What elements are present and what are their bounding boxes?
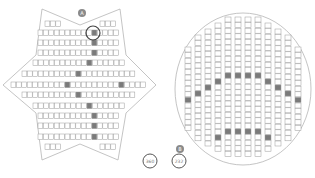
seat[interactable] (92, 92, 97, 98)
seat[interactable] (44, 71, 49, 77)
seat[interactable] (225, 79, 231, 84)
seat[interactable] (76, 40, 81, 46)
seat[interactable] (235, 101, 241, 106)
seat[interactable] (285, 97, 291, 102)
seat[interactable] (185, 58, 191, 63)
seat[interactable] (255, 84, 261, 89)
seat[interactable] (255, 146, 261, 151)
seat[interactable] (215, 141, 221, 146)
seat[interactable] (43, 30, 48, 36)
seat[interactable] (275, 57, 281, 62)
seat[interactable] (235, 45, 241, 50)
seat[interactable] (235, 39, 241, 44)
seat[interactable] (245, 51, 251, 56)
seat-selected[interactable] (215, 135, 221, 140)
seat[interactable] (245, 118, 251, 123)
seat[interactable] (255, 123, 261, 128)
seat[interactable] (275, 113, 281, 118)
seat[interactable] (38, 103, 43, 109)
seat[interactable] (225, 23, 231, 28)
seat[interactable] (33, 60, 38, 66)
seat[interactable] (275, 130, 281, 135)
seat[interactable] (265, 107, 271, 112)
seat[interactable] (103, 30, 108, 36)
seat[interactable] (205, 35, 211, 40)
seat[interactable] (195, 74, 201, 79)
seat[interactable] (60, 50, 65, 56)
seat[interactable] (33, 92, 38, 98)
seat[interactable] (275, 141, 281, 146)
seat-selected[interactable] (87, 103, 92, 109)
seat-selected[interactable] (205, 85, 211, 90)
seat[interactable] (185, 69, 191, 74)
seat[interactable] (60, 71, 65, 77)
seat[interactable] (43, 113, 48, 119)
seat[interactable] (245, 101, 251, 106)
seat[interactable] (195, 136, 201, 141)
seat[interactable] (16, 82, 21, 88)
seat[interactable] (109, 103, 114, 109)
seat[interactable] (98, 103, 103, 109)
seat[interactable] (285, 35, 291, 40)
seat[interactable] (215, 146, 221, 151)
seat[interactable] (108, 113, 113, 119)
seat[interactable] (195, 119, 201, 124)
seat[interactable] (265, 68, 271, 73)
seat[interactable] (76, 113, 81, 119)
seat[interactable] (285, 74, 291, 79)
seat[interactable] (195, 69, 201, 74)
seat[interactable] (255, 45, 261, 50)
seat[interactable] (60, 92, 65, 98)
seat[interactable] (235, 17, 241, 22)
seat[interactable] (185, 103, 191, 108)
seat[interactable] (100, 21, 105, 27)
seat[interactable] (285, 102, 291, 107)
seat[interactable] (245, 67, 251, 72)
seat[interactable] (275, 74, 281, 79)
seat[interactable] (38, 40, 43, 46)
seat[interactable] (114, 50, 119, 56)
seat[interactable] (54, 40, 59, 46)
seat[interactable] (43, 82, 48, 88)
seat[interactable] (245, 39, 251, 44)
seat[interactable] (295, 58, 301, 63)
seat[interactable] (114, 113, 119, 119)
seat[interactable] (38, 92, 43, 98)
seat[interactable] (195, 108, 201, 113)
seat[interactable] (275, 29, 281, 34)
seat[interactable] (275, 102, 281, 107)
seat[interactable] (56, 144, 61, 150)
seat[interactable] (65, 103, 70, 109)
seat[interactable] (38, 113, 43, 119)
seat[interactable] (205, 63, 211, 68)
seat[interactable] (285, 63, 291, 68)
seat[interactable] (225, 84, 231, 89)
seat[interactable] (38, 134, 43, 140)
seat[interactable] (119, 60, 124, 66)
seat[interactable] (103, 40, 108, 46)
seat[interactable] (119, 92, 124, 98)
seat[interactable] (60, 103, 65, 109)
seat[interactable] (245, 45, 251, 50)
seat[interactable] (225, 118, 231, 123)
seat[interactable] (185, 109, 191, 114)
seat[interactable] (54, 30, 59, 36)
seat[interactable] (105, 21, 110, 27)
seat[interactable] (195, 41, 201, 46)
seat[interactable] (71, 92, 76, 98)
seat[interactable] (245, 28, 251, 33)
seat[interactable] (11, 82, 16, 88)
seat[interactable] (225, 39, 231, 44)
seat[interactable] (285, 80, 291, 85)
seat[interactable] (255, 151, 261, 156)
seat[interactable] (135, 82, 140, 88)
seat[interactable] (265, 23, 271, 28)
seat[interactable] (65, 30, 70, 36)
seat[interactable] (76, 50, 81, 56)
seat[interactable] (38, 50, 43, 56)
seat[interactable] (255, 101, 261, 106)
seat[interactable] (255, 34, 261, 39)
seat[interactable] (205, 141, 211, 146)
seat[interactable] (295, 120, 301, 125)
seat[interactable] (285, 69, 291, 74)
